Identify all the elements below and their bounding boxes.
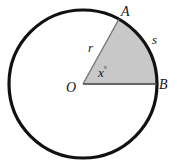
radius-label-r: r	[88, 41, 93, 54]
arc-length-label-s: s	[152, 33, 157, 46]
center-label-o: O	[66, 81, 76, 95]
point-label-b: B	[159, 78, 168, 92]
geometry-figure: A s r x° O B	[0, 0, 177, 164]
circle-sector-svg	[0, 0, 177, 164]
point-label-a: A	[121, 5, 130, 19]
degree-symbol: °	[104, 65, 107, 74]
angle-label-x-degrees: x°	[98, 66, 107, 79]
